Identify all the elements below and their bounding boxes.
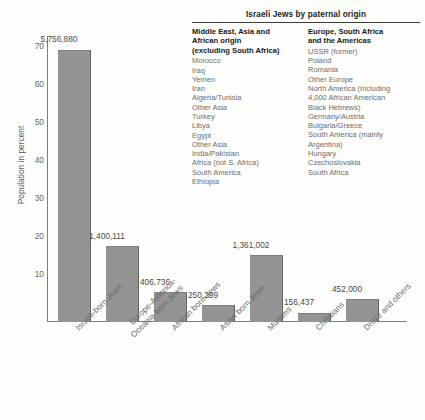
heading-line: Middle East, Asia and [192, 27, 300, 36]
legend-origin-list: Morocco Iraq Yemen Iran Algeria/Tunisia … [192, 56, 300, 186]
legend-title: Israeli Jews by paternal origin [192, 10, 420, 22]
bar-israeli-born-jews [58, 50, 91, 323]
bar-value-muslims: 1,361,002 [218, 240, 284, 250]
bar-value-druze-and-others: 452,000 [314, 284, 380, 294]
list-item: Yemen [192, 75, 300, 84]
y-tick-60: 60 [22, 79, 44, 89]
list-item: Other Asia [192, 103, 300, 112]
legend-column-middle-east-asia-africa: Middle East, Asia and African origin (ex… [192, 27, 300, 186]
heading-line: (excluding South Africa) [192, 46, 300, 55]
list-item: Germany/Austria [308, 112, 416, 121]
y-tick-20: 20 [22, 231, 44, 241]
y-tick-40: 40 [22, 155, 44, 165]
legend-column-europe-south-africa-americas: Europe, South Africa and the Americas US… [308, 27, 416, 186]
legend-column-heading: Middle East, Asia and African origin (ex… [192, 27, 300, 55]
legend-column-heading: Europe, South Africa and the Americas [308, 27, 416, 46]
list-item: Iraq [192, 66, 300, 75]
list-item: Algeria/Tunisia [192, 93, 300, 102]
list-item: Poland [308, 56, 416, 65]
list-item: Libya [192, 121, 300, 130]
heading-line: African origin [192, 36, 300, 45]
legend-origin-list: USSR (former) Poland Romania Other Europ… [308, 47, 416, 177]
list-item: Romania [308, 65, 416, 74]
legend-divider [192, 22, 420, 23]
list-item: Ethiopia [192, 177, 300, 186]
list-item: Czechoslovakia [308, 158, 416, 167]
list-item: Bulgaria/Greece [308, 121, 416, 130]
list-item: South America [192, 168, 300, 177]
y-axis-tick-labels: 70 60 50 40 30 20 10 [22, 0, 44, 420]
list-item: Africa (not S. Africa) [192, 158, 300, 167]
y-tick-30: 30 [22, 193, 44, 203]
list-item: South Africa [308, 168, 416, 177]
bar-value-christians: 156,437 [266, 297, 332, 307]
y-tick-10: 10 [22, 269, 44, 279]
list-item: Other Asia [192, 140, 300, 149]
bar-value-europe-america-oceania-born-jews: 1,400,111 [74, 231, 140, 241]
list-item: Argentina) [308, 140, 416, 149]
y-tick-50: 50 [22, 117, 44, 127]
bar-value-israeli-born-jews: 5,756,880 [26, 34, 92, 44]
list-item: Hungary [308, 149, 416, 158]
list-item: Turkey [192, 112, 300, 121]
heading-line: and the Americas [308, 36, 416, 45]
list-item: South America (mainly [308, 130, 416, 139]
list-item: 4,000 African American [308, 93, 416, 102]
heading-line: Europe, South Africa [308, 27, 416, 36]
list-item: USSR (former) [308, 47, 416, 56]
list-item: North America (Including [308, 84, 416, 93]
list-item: India/Pakistan [192, 149, 300, 158]
list-item: Black Hebrews) [308, 103, 416, 112]
list-item: Egypt [192, 131, 300, 140]
legend-panel: Israeli Jews by paternal origin Middle E… [192, 10, 420, 186]
list-item: Morocco [192, 56, 300, 65]
list-item: Iran [192, 84, 300, 93]
list-item: Other Europe [308, 75, 416, 84]
